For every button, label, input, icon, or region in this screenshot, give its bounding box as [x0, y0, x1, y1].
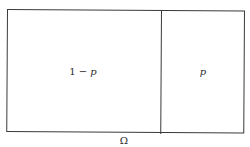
- region-label-event: p: [200, 66, 206, 78]
- sample-space-box: [6, 9, 245, 133]
- event-variable: p: [200, 66, 206, 77]
- partition-divider: [160, 10, 162, 134]
- complement-variable: p: [90, 66, 96, 77]
- universe-label: Ω: [120, 135, 128, 147]
- complement-constant: 1 −: [69, 66, 90, 77]
- region-label-complement: 1 − p: [69, 66, 97, 78]
